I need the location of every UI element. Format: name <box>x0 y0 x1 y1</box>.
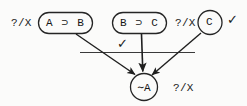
annotation-a-imp-b: ?/X <box>11 17 32 29</box>
checkmark-icon-right: ✓ <box>227 13 238 26</box>
node-label-c: C <box>198 16 222 28</box>
checkmark-icon-middle: ✓ <box>117 37 128 50</box>
edge-c-to-not-a <box>152 33 201 75</box>
edge-b-imp-c-to-not-a <box>142 34 143 72</box>
annotation-c: ?/X <box>175 17 196 29</box>
node-label-a-imp-b: A ⊃ B <box>38 16 93 29</box>
annotation-not-a: ?/X <box>173 82 194 94</box>
node-label-b-imp-c: B ⊃ C <box>112 16 167 29</box>
node-label-not-a: ∼A <box>130 81 158 94</box>
logic-diagram-canvas: A ⊃ B B ⊃ C C ∼A ?/X ?/X ?/X ✓ ✓ <box>0 0 247 106</box>
